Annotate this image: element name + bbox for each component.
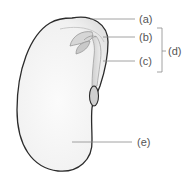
bean-seed-diagram: (a) (b) (c) (d) (e) bbox=[0, 0, 190, 181]
bracket-d bbox=[157, 28, 166, 72]
label-e: (e) bbox=[137, 136, 150, 148]
label-a: (a) bbox=[139, 13, 152, 25]
label-b: (b) bbox=[139, 31, 152, 43]
label-d: (d) bbox=[168, 45, 181, 57]
label-c: (c) bbox=[139, 55, 152, 67]
hilum bbox=[90, 86, 99, 106]
